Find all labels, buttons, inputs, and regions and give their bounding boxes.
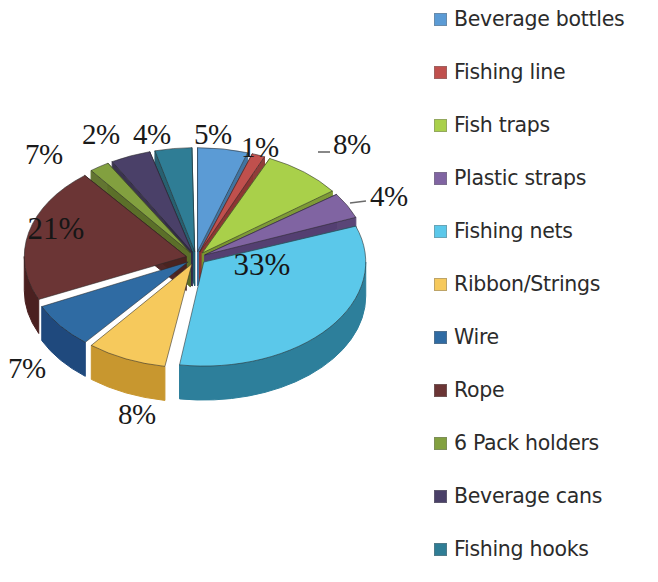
legend-swatch-icon [434,278,447,291]
legend-item-beverage-cans[interactable]: Beverage cans [434,483,602,509]
legend-item-6-pack-holders[interactable]: 6 Pack holders [434,430,599,456]
wire-label: 7% [8,352,46,385]
legend-item-fishing-line[interactable]: Fishing line [434,59,565,85]
rope-outside-label: 7% [25,138,63,171]
legend-item-label: Plastic straps [454,168,586,189]
legend-item-label: Fishing hooks [454,539,589,560]
chart-legend: Beverage bottlesFishing lineFish trapsPl… [434,0,658,582]
legend-item-fishing-nets[interactable]: Fishing nets [434,218,573,244]
legend-item-label: Rope [454,380,504,401]
legend-item-label: Wire [454,327,499,348]
pie-chart-figure: 21%33% 7%2%4%5%7%1%8%4%8% Beverage bottl… [0,0,658,582]
fishing-hooks-label: 5% [194,118,232,151]
beverage-cans-label: 4% [133,118,171,151]
legend-swatch-icon [434,66,447,79]
legend-swatch-icon [434,331,447,344]
ribbon-strings-label: 8% [118,398,156,431]
plastic-straps-label: 4% [370,180,408,213]
legend-item-label: Beverage cans [454,486,602,507]
legend-item-label: Fish traps [454,115,550,136]
legend-item-plastic-straps[interactable]: Plastic straps [434,165,586,191]
pie-plot-area: 21%33% 7%2%4%5%7%1%8%4%8% [0,0,430,582]
legend-item-rope[interactable]: Rope [434,377,504,403]
legend-item-label: Beverage bottles [454,9,624,30]
legend-item-beverage-bottles[interactable]: Beverage bottles [434,6,624,32]
fish-traps-label: 8% [333,128,371,161]
legend-item-label: Fishing nets [454,221,573,242]
legend-item-fish-traps[interactable]: Fish traps [434,112,550,138]
legend-swatch-icon [434,490,447,503]
fishing-line-label: 1% [241,131,279,164]
legend-swatch-icon [434,437,447,450]
legend-item-ribbon-strings[interactable]: Ribbon/Strings [434,271,600,297]
legend-swatch-icon [434,13,447,26]
plastic-straps-leader [350,201,366,203]
six-pack-label: 2% [82,118,120,151]
legend-swatch-icon [434,172,447,185]
legend-swatch-icon [434,543,447,556]
legend-item-label: 6 Pack holders [454,433,599,454]
legend-item-label: Ribbon/Strings [454,274,600,295]
pie-inner-label-fishing-nets: 33% [234,247,291,282]
legend-swatch-icon [434,119,447,132]
legend-swatch-icon [434,225,447,238]
pie-inner-label-rope: 21% [28,211,85,246]
legend-swatch-icon [434,384,447,397]
legend-item-label: Fishing line [454,62,565,83]
legend-item-wire[interactable]: Wire [434,324,499,350]
pie-svg: 21%33% [0,0,430,582]
legend-item-fishing-hooks[interactable]: Fishing hooks [434,536,589,562]
